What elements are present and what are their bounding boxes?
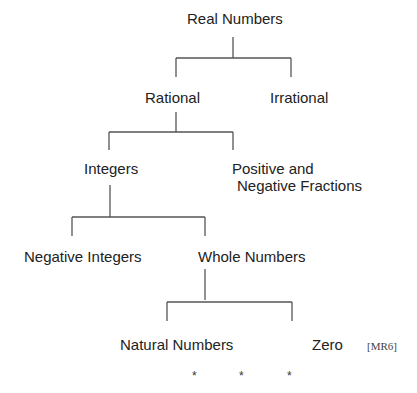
node-fractions-line2: Negative Fractions bbox=[237, 178, 362, 193]
node-rational: Rational bbox=[145, 90, 200, 105]
node-integers: Integers bbox=[84, 161, 138, 176]
node-zero: Zero bbox=[312, 337, 343, 352]
tree-connectors bbox=[0, 0, 417, 393]
node-fractions-line1: Positive and bbox=[232, 161, 314, 176]
node-negative-integers: Negative Integers bbox=[24, 249, 142, 264]
asterisk: * bbox=[192, 369, 197, 383]
asterisk: * bbox=[287, 369, 292, 383]
node-irrational: Irrational bbox=[270, 90, 328, 105]
node-whole-numbers: Whole Numbers bbox=[198, 249, 306, 264]
node-real-numbers: Real Numbers bbox=[187, 11, 283, 26]
asterisk: * bbox=[239, 369, 244, 383]
reference-label: [MR6] bbox=[367, 340, 397, 352]
node-natural-numbers: Natural Numbers bbox=[120, 337, 233, 352]
